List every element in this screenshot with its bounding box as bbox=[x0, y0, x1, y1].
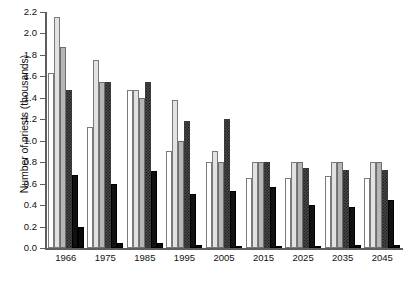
bar bbox=[309, 205, 315, 248]
bar bbox=[151, 171, 157, 248]
bar bbox=[230, 191, 236, 248]
bar bbox=[349, 207, 355, 248]
bar bbox=[111, 184, 117, 248]
x-tick-label: 2045 bbox=[372, 252, 393, 263]
y-tick-label: 2.2 bbox=[24, 6, 37, 17]
bar bbox=[196, 245, 202, 248]
bar bbox=[276, 246, 282, 248]
y-tick-label: 0.0 bbox=[24, 242, 37, 253]
bar bbox=[270, 187, 276, 248]
y-tick-mark bbox=[40, 248, 46, 249]
x-tick-label: 1985 bbox=[134, 252, 155, 263]
bar bbox=[157, 243, 163, 248]
y-tick-label: 0.4 bbox=[24, 199, 37, 210]
y-tick-label: 0.6 bbox=[24, 178, 37, 189]
bar-group bbox=[87, 12, 123, 248]
y-tick-label: 1.0 bbox=[24, 135, 37, 146]
bar bbox=[117, 243, 123, 248]
bar bbox=[236, 246, 242, 248]
bar-group bbox=[325, 12, 361, 248]
x-tick-label: 1995 bbox=[174, 252, 195, 263]
bar-group bbox=[127, 12, 163, 248]
y-tick-label: 1.4 bbox=[24, 92, 37, 103]
bar-chart: Number of priests (thousands) 0.00.20.40… bbox=[0, 0, 414, 291]
bar bbox=[388, 200, 394, 248]
x-tick-label: 2015 bbox=[253, 252, 274, 263]
x-axis-line bbox=[45, 248, 403, 250]
bar bbox=[78, 227, 84, 248]
x-tick-label: 2035 bbox=[332, 252, 353, 263]
x-tick-label: 1975 bbox=[95, 252, 116, 263]
plot-area: 0.00.20.40.60.81.01.21.41.61.82.02.2 bbox=[46, 12, 402, 248]
y-tick-label: 0.8 bbox=[24, 156, 37, 167]
bar bbox=[190, 194, 196, 248]
x-tick-label: 2025 bbox=[293, 252, 314, 263]
bar-groups bbox=[46, 12, 402, 248]
x-tick-label: 2005 bbox=[213, 252, 234, 263]
y-tick-label: 1.8 bbox=[24, 49, 37, 60]
y-tick-label: 1.2 bbox=[24, 113, 37, 124]
y-tick-label: 2.0 bbox=[24, 27, 37, 38]
y-tick-label: 0.2 bbox=[24, 221, 37, 232]
y-tick-label: 1.6 bbox=[24, 70, 37, 81]
bar-group bbox=[166, 12, 202, 248]
bar bbox=[394, 245, 400, 248]
bar-group bbox=[285, 12, 321, 248]
x-tick-label: 1966 bbox=[55, 252, 76, 263]
x-axis-labels: 196619751985199520052015202520352045 bbox=[46, 252, 402, 272]
bar bbox=[315, 246, 321, 248]
bar-group bbox=[246, 12, 282, 248]
bar-group bbox=[206, 12, 242, 248]
bar bbox=[355, 245, 361, 248]
bar-group bbox=[364, 12, 400, 248]
bar-group bbox=[48, 12, 84, 248]
